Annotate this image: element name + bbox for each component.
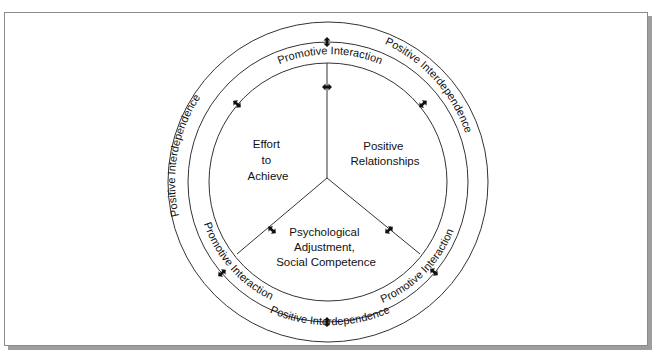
outer-ring-label-left: Positive Interdependence bbox=[165, 92, 202, 219]
sector-psych-label: Psychological Adjustment, Social Compete… bbox=[276, 226, 376, 268]
cooperation-diagram: Positive Interdependence Positive Interd… bbox=[0, 0, 659, 353]
bidirectional-arrow-icon bbox=[383, 224, 395, 236]
bidirectional-arrow-icon bbox=[417, 98, 429, 110]
sector-effort-label: Effort to Achieve bbox=[248, 138, 289, 182]
bidirectional-arrow-icon bbox=[266, 224, 278, 236]
middle-ring bbox=[188, 42, 468, 322]
inner-ring-label-bottom-right: Promotive Interaction bbox=[378, 227, 455, 305]
outer-ring bbox=[168, 22, 488, 342]
sector-relationships-label: Positive Relationships bbox=[350, 140, 419, 167]
outer-ring-label-bottom: Positive Interdependence bbox=[269, 303, 391, 327]
